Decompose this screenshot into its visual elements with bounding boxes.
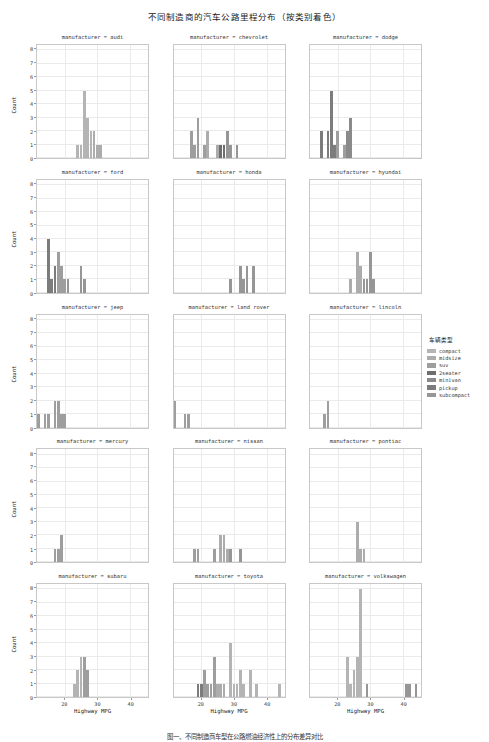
facet-title: manufacturer = toyota: [173, 573, 286, 579]
y-axis-tick-label: 2: [30, 533, 33, 539]
gridline-horizontal: [37, 507, 148, 508]
gridline-horizontal: [37, 467, 148, 468]
y-axis-tick-label: 7: [30, 330, 33, 336]
gridline-horizontal: [174, 494, 285, 495]
gridline-horizontal: [310, 117, 421, 118]
y-axis-tick-label: 5: [30, 357, 33, 363]
gridline-horizontal: [174, 629, 285, 630]
gridline-horizontal: [37, 184, 148, 185]
gridline-vertical: [338, 315, 339, 428]
y-axis-tick-label: 8: [30, 46, 33, 52]
y-axis-tick-label: 8: [30, 585, 33, 591]
legend-item[interactable]: minivan: [427, 377, 489, 384]
histogram-bar: [236, 684, 239, 697]
histogram-bar: [356, 252, 359, 292]
histogram-bar: [229, 643, 232, 697]
histogram-bar: [236, 145, 239, 158]
histogram-bar: [219, 535, 222, 562]
y-axis-tick-mark: [34, 62, 36, 63]
legend-item[interactable]: suv: [427, 362, 489, 369]
gridline-horizontal: [37, 669, 148, 670]
page-title: 不同制造商的汽车公路里程分布（按类别着色）: [0, 10, 489, 22]
histogram-bar: [330, 91, 333, 158]
gridline-horizontal: [174, 319, 285, 320]
gridline-horizontal: [310, 184, 421, 185]
y-axis-tick-label: 6: [30, 478, 33, 484]
facet-panel: manufacturer = chevrolet: [173, 44, 286, 159]
y-axis-label: Count: [11, 366, 17, 383]
y-axis-tick-label: 1: [30, 412, 33, 418]
y-axis-tick-label: 5: [30, 627, 33, 633]
gridline-horizontal: [37, 454, 148, 455]
histogram-bar: [197, 684, 200, 697]
x-axis-tick-mark: [131, 698, 132, 700]
legend-item-label: compact: [439, 348, 461, 354]
gridline-horizontal: [37, 238, 148, 239]
gridline-horizontal: [37, 521, 148, 522]
legend-item[interactable]: pickup: [427, 384, 489, 391]
gridline-horizontal: [37, 683, 148, 684]
y-axis-label: Count: [11, 96, 17, 113]
histogram-bar: [415, 684, 418, 697]
histogram-bar: [369, 252, 372, 292]
gridline-vertical: [65, 45, 66, 158]
y-axis-tick-label: 5: [30, 222, 33, 228]
y-axis-tick-label: 8: [30, 451, 33, 457]
y-axis-tick-label: 0: [30, 291, 33, 297]
y-axis-tick-mark: [34, 466, 36, 467]
gridline-horizontal: [174, 90, 285, 91]
histogram-bar: [50, 279, 53, 292]
plot-area: [36, 448, 149, 563]
y-axis-tick-label: 5: [30, 492, 33, 498]
histogram-bar: [320, 131, 323, 158]
gridline-vertical: [97, 449, 98, 562]
facet-panel: manufacturer = land rover: [173, 314, 286, 429]
gridline-horizontal: [174, 615, 285, 616]
histogram-bar: [93, 131, 96, 158]
gridline-horizontal: [174, 467, 285, 468]
gridline-horizontal: [37, 198, 148, 199]
gridline-horizontal: [310, 386, 421, 387]
plot-area: [173, 179, 286, 294]
x-axis-label: Highway MPG: [36, 708, 149, 714]
facet-title: manufacturer = lincoln: [309, 304, 422, 310]
y-axis-tick-mark: [34, 144, 36, 145]
histogram-bar: [226, 131, 229, 158]
facet-panel: manufacturer = volkswagen203040Highway M…: [309, 583, 422, 698]
y-axis-tick-label: 7: [30, 464, 33, 470]
gridline-horizontal: [37, 373, 148, 374]
histogram-bar: [349, 118, 352, 158]
histogram-bar: [343, 145, 346, 158]
gridline-horizontal: [37, 629, 148, 630]
histogram-bar: [213, 657, 216, 697]
legend-title: 车辆类型: [429, 336, 489, 344]
legend-item[interactable]: subcompact: [427, 391, 489, 398]
histogram-bar: [193, 145, 196, 158]
y-axis-tick-label: 3: [30, 250, 33, 256]
gridline-horizontal: [310, 548, 421, 549]
legend-item[interactable]: compact: [427, 347, 489, 354]
gridline-horizontal: [174, 413, 285, 414]
y-axis-tick-mark: [34, 386, 36, 387]
legend-item[interactable]: midsize: [427, 354, 489, 361]
y-axis-tick-mark: [34, 76, 36, 77]
gridline-vertical: [130, 449, 131, 562]
gridline-horizontal: [37, 103, 148, 104]
gridline-vertical: [65, 180, 66, 293]
y-axis-tick-mark: [34, 428, 36, 429]
y-axis-tick-label: 2: [30, 263, 33, 269]
gridline-horizontal: [37, 386, 148, 387]
y-axis-tick-mark: [34, 615, 36, 616]
histogram-bar: [197, 549, 200, 562]
gridline-horizontal: [310, 238, 421, 239]
gridline-horizontal: [174, 386, 285, 387]
gridline-horizontal: [310, 642, 421, 643]
y-axis-label: Count: [11, 500, 17, 517]
histogram-bar: [54, 266, 57, 293]
legend-item[interactable]: 2seater: [427, 369, 489, 376]
x-axis-tick-label: 20: [61, 701, 67, 707]
y-axis-tick-label: 4: [30, 101, 33, 107]
y-axis-tick-label: 0: [30, 156, 33, 162]
y-axis-tick-label: 1: [30, 277, 33, 283]
y-axis-label: Count: [11, 231, 17, 248]
